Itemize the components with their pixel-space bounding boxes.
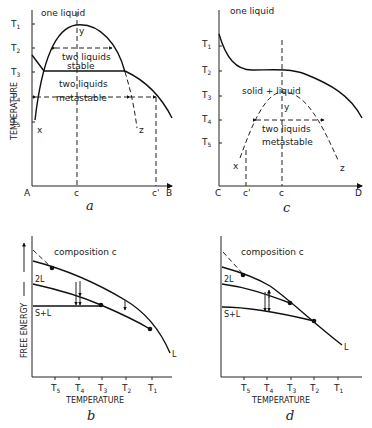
x-tick-c: c: [279, 188, 284, 198]
region-one-liquid: one liquid: [230, 6, 274, 16]
panel-label-b: b: [87, 408, 95, 423]
label-S+L: S+L: [224, 310, 241, 319]
tick-T2: T2: [201, 65, 212, 76]
panel-a-phase-diagram: T1 T2 T3 T4 T5 TEMPERATURE one liquid y …: [10, 8, 172, 213]
region-meta-1: two liquids: [262, 124, 311, 134]
tick-T5: T5: [50, 383, 61, 394]
figure-canvas: T1 T2 T3 T4 T5 TEMPERATURE one liquid y …: [0, 0, 372, 428]
point-y: y: [284, 102, 290, 112]
label-2L: 2L: [35, 275, 45, 284]
label-2L: 2L: [224, 275, 234, 284]
tick-T1: T1: [10, 19, 21, 30]
miscibility-gap-metastable-curve: [125, 72, 137, 128]
x-tick-cprime: c': [152, 188, 159, 198]
tick-T3: T3: [10, 67, 21, 78]
x-tick-cprime: c': [243, 188, 250, 198]
x-tick-D: D: [355, 188, 362, 198]
region-solid-liquid: solid + liquid: [242, 86, 301, 96]
x-tick-C: C: [215, 188, 221, 198]
chart-title: composition c: [54, 247, 117, 257]
panel-c-phase-diagram: T1 T2 T3 T4 T5 one liquid solid + liquid…: [201, 6, 362, 215]
y-axis-label: FREE ENERGY: [20, 303, 29, 358]
intersection-T3: [99, 303, 104, 308]
tick-T1: T1: [147, 383, 158, 394]
intersection-T2: [312, 319, 317, 324]
panel-label-d: d: [286, 408, 294, 423]
panel-label-c: c: [283, 200, 291, 215]
intersection-T5: [241, 273, 246, 278]
point-x: x: [233, 161, 239, 171]
tick-T4: T4: [201, 114, 212, 125]
liquidus-right: [125, 71, 172, 118]
tick-T1: T1: [201, 39, 212, 50]
x-tick-B: B: [166, 188, 172, 198]
intersection-T3: [288, 301, 293, 306]
point-z: z: [139, 125, 144, 135]
panel-b-free-energy: FREE ENERGY composition c 2L S+L L T5 T4…: [20, 236, 177, 423]
tick-T1: T1: [333, 383, 344, 394]
tick-T5: T5: [201, 137, 212, 148]
x-axis-label: TEMPERATURE: [65, 396, 124, 405]
chart-title: composition c: [241, 247, 304, 257]
intersection-T1: [148, 327, 153, 332]
point-x: x: [37, 125, 43, 135]
intersection-T5: [50, 266, 55, 271]
x-tick-c: c: [74, 188, 79, 198]
region-meta-2: metastable: [262, 137, 313, 147]
tick-T2: T2: [10, 43, 21, 54]
tick-T2: T2: [121, 383, 132, 394]
panel-d-free-energy: composition c 2L S+L L T5 T4 T3 T2 T1 TE…: [221, 236, 362, 423]
tick-T3: T3: [286, 383, 297, 394]
liquidus-curve: [219, 34, 362, 118]
region-one-liquid: one liquid: [41, 8, 85, 18]
tick-T2: T2: [309, 383, 320, 394]
tick-T3: T3: [97, 383, 108, 394]
liquidus-left: [32, 55, 44, 71]
label-L: L: [344, 343, 349, 352]
y-axis-label: TEMPERATURE: [10, 82, 19, 141]
label-S+L: S+L: [35, 309, 52, 318]
region-meta-1: two liquids: [59, 79, 108, 89]
tick-T4: T4: [263, 383, 274, 394]
x-tick-A: A: [24, 188, 31, 198]
label-L: L: [172, 350, 177, 359]
region-stable-2: stable: [67, 61, 95, 71]
region-meta-2: metastable: [56, 93, 107, 103]
miscibility-gap-curve: [35, 25, 125, 120]
x-axis-label: TEMPERATURE: [251, 396, 310, 405]
point-z: z: [340, 163, 345, 173]
curve-L: [222, 267, 342, 345]
panel-label-a: a: [86, 198, 94, 213]
tick-T3: T3: [201, 90, 212, 101]
tick-T4: T4: [74, 383, 85, 394]
tick-T5: T5: [240, 383, 251, 394]
point-y: y: [79, 26, 85, 36]
